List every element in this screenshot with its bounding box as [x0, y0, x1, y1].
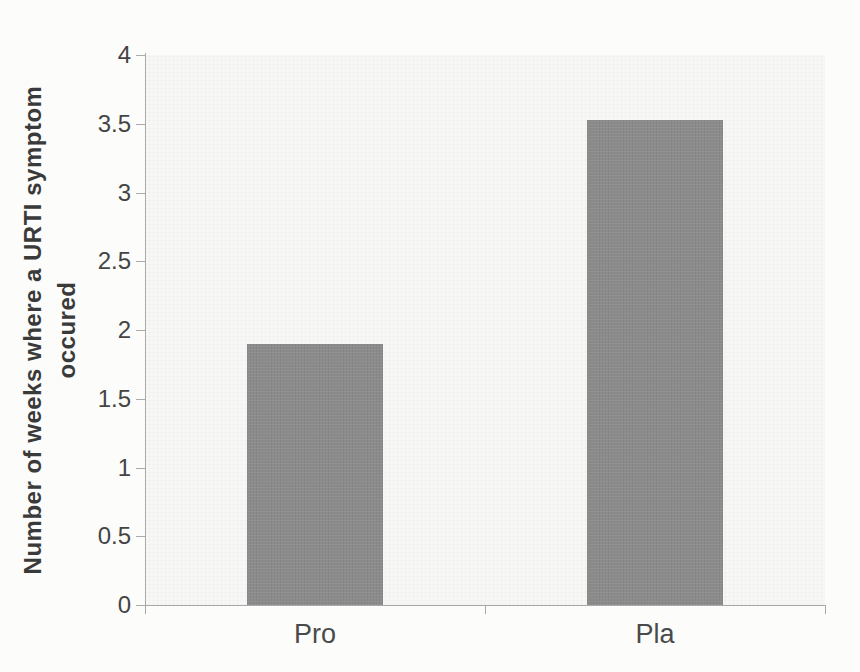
y-tick-label: 1 [61, 456, 131, 480]
y-axis-tick [136, 124, 145, 125]
bar-pro [247, 344, 383, 605]
y-tick-label: 3.5 [61, 112, 131, 136]
y-axis-title-line-1: Number of weeks where a URTI symptom [16, 55, 50, 605]
y-axis-tick [136, 536, 145, 537]
y-tick-label: 3 [61, 181, 131, 205]
y-axis-tick [136, 261, 145, 262]
y-axis-tick [136, 399, 145, 400]
y-tick-label: 4 [61, 43, 131, 67]
x-axis-tick [825, 605, 826, 614]
y-tick-label: 0 [61, 593, 131, 617]
y-axis-tick [136, 468, 145, 469]
x-category-label: Pro [215, 620, 415, 648]
y-axis-tick [136, 330, 145, 331]
y-axis-line [145, 53, 146, 614]
x-axis-tick [485, 605, 486, 614]
x-category-label: Pla [555, 620, 755, 648]
y-tick-label: 2 [61, 318, 131, 342]
bar-chart-figure: Number of weeks where a URTI symptom occ… [0, 0, 860, 672]
y-axis-tick [136, 193, 145, 194]
x-axis-tick [145, 605, 146, 614]
bar-pla [587, 120, 723, 605]
y-tick-label: 1.5 [61, 387, 131, 411]
y-axis-tick [136, 605, 145, 606]
y-tick-label: 2.5 [61, 249, 131, 273]
y-axis-tick [136, 55, 145, 56]
y-tick-label: 0.5 [61, 524, 131, 548]
